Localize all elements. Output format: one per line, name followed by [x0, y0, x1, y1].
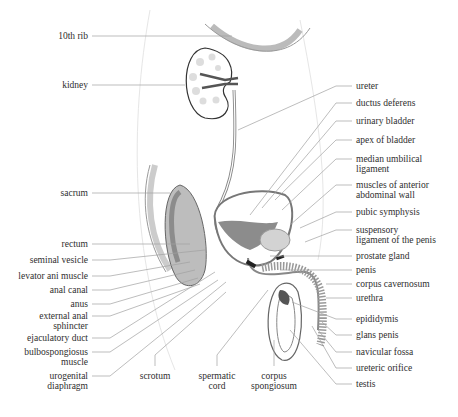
label-line: urinary bladder: [356, 116, 414, 126]
label-line: scrotum: [120, 371, 190, 381]
label-ureter: ureter: [356, 81, 378, 91]
label-line: navicular fossa: [356, 347, 413, 357]
label-line: ejaculatory duct: [27, 333, 88, 343]
label-10th-rib: 10th rib: [58, 31, 88, 41]
label-line: ureter: [356, 81, 378, 91]
label-line: external anal: [39, 311, 88, 321]
label-line: testis: [356, 379, 376, 389]
label-line: epididymis: [356, 314, 398, 324]
label-line: 10th rib: [58, 31, 88, 41]
label-corpus-spongiosum: corpusspongiosum: [239, 371, 309, 391]
label-line: levator ani muscle: [18, 271, 88, 281]
label-line: muscle: [24, 357, 88, 367]
label-line: anus: [71, 299, 88, 309]
rib-illustration: [205, 24, 310, 51]
label-line: anal canal: [50, 285, 88, 295]
label-muscles-of-anterior-abdominal-wall: muscles of anteriorabdominal wall: [356, 180, 429, 200]
label-ductus-deferens: ductus deferens: [356, 98, 415, 108]
label-line: corpus cavernosum: [356, 279, 430, 289]
label-line: sacrum: [61, 188, 88, 198]
label-scrotum: scrotum: [120, 371, 190, 381]
bladder-illustration: [215, 191, 293, 265]
label-line: median umbilical: [356, 154, 422, 164]
label-line: abdominal wall: [356, 190, 429, 200]
label-line: suspensory: [356, 225, 436, 235]
label-line: ductus deferens: [356, 98, 415, 108]
label-kidney: kidney: [62, 80, 88, 90]
label-levator-ani-muscle: levator ani muscle: [18, 271, 88, 281]
label-line: penis: [356, 265, 376, 275]
label-line: sphincter: [39, 321, 88, 331]
label-line: spongiosum: [239, 381, 309, 391]
label-seminal-vesicle: seminal vesicle: [30, 255, 88, 265]
label-line: bulbospongiosus: [24, 347, 88, 357]
label-bulbospongiosus-muscle: bulbospongiosusmuscle: [24, 347, 88, 367]
label-sacrum: sacrum: [61, 188, 88, 198]
label-anus: anus: [71, 299, 88, 309]
label-corpus-cavernosum: corpus cavernosum: [356, 279, 430, 289]
label-rectum: rectum: [62, 239, 88, 249]
label-ureteric-orifice: ureteric orifice: [356, 363, 412, 373]
testis-illustration: [268, 283, 301, 360]
label-line: urethra: [356, 293, 383, 303]
label-suspensory-ligament-of-the-penis: suspensoryligament of the penis: [356, 225, 436, 245]
label-anal-canal: anal canal: [50, 285, 88, 295]
label-line: apex of bladder: [356, 135, 415, 145]
label-line: kidney: [62, 80, 88, 90]
anatomy-diagram: 10th ribkidneysacrumrectumseminal vesicl…: [0, 0, 458, 417]
label-apex-of-bladder: apex of bladder: [356, 135, 415, 145]
label-navicular-fossa: navicular fossa: [356, 347, 413, 357]
label-pubic-symphysis: pubic symphysis: [356, 207, 420, 217]
label-line: rectum: [62, 239, 88, 249]
label-urethra: urethra: [356, 293, 383, 303]
label-line: seminal vesicle: [30, 255, 88, 265]
label-glans-penis: glans penis: [356, 330, 398, 340]
rectum-illustration: [165, 185, 206, 286]
label-ejaculatory-duct: ejaculatory duct: [27, 333, 88, 343]
label-penis: penis: [356, 265, 376, 275]
label-urinary-bladder: urinary bladder: [356, 116, 414, 126]
label-testis: testis: [356, 379, 376, 389]
label-line: prostate gland: [356, 251, 410, 261]
label-external-anal-sphincter: external analsphincter: [39, 311, 88, 331]
label-epididymis: epididymis: [356, 314, 398, 324]
label-line: pubic symphysis: [356, 207, 420, 217]
label-line: ligament: [356, 164, 422, 174]
label-prostate-gland: prostate gland: [356, 251, 410, 261]
label-line: ligament of the penis: [356, 235, 436, 245]
label-median-umbilical-ligament: median umbilicalligament: [356, 154, 422, 174]
label-line: muscles of anterior: [356, 180, 429, 190]
label-line: glans penis: [356, 330, 398, 340]
label-line: urogenital: [47, 371, 88, 381]
label-urogenital-diaphragm: urogenitaldiaphragm: [47, 371, 88, 391]
label-line: ureteric orifice: [356, 363, 412, 373]
label-line: corpus: [239, 371, 309, 381]
label-line: diaphragm: [47, 381, 88, 391]
